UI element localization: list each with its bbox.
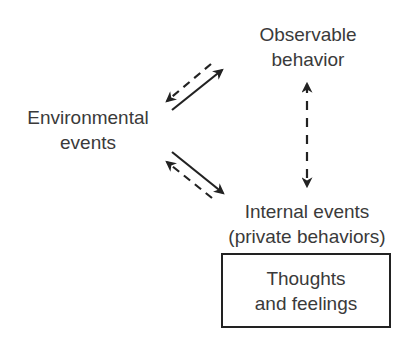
arrows-layer [0,0,418,340]
